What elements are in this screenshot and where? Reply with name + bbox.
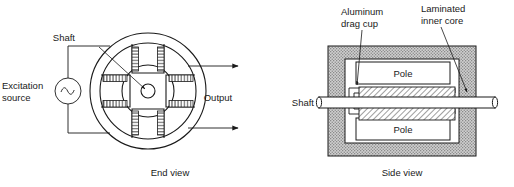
diagram-svg: Shaft Excitation source Output End view … — [0, 0, 514, 187]
shaft-end-cap-left-icon — [316, 97, 321, 108]
side-view-pole-top-label: Pole — [393, 68, 412, 79]
aluminum-drag-cup-label-line2: drag cup — [341, 18, 378, 29]
pole-right-winding-top — [169, 75, 193, 82]
excitation-circuit — [55, 46, 110, 133]
end-view-group: Shaft Excitation source Output End view — [2, 32, 238, 178]
pole-bottom-winding-left — [132, 111, 139, 135]
side-view-shaft-bar — [319, 97, 495, 108]
pole-left — [101, 75, 130, 107]
aluminum-drag-cup-label-line1: Aluminum — [341, 6, 383, 17]
pole-top-winding-right — [158, 47, 165, 71]
end-view-caption: End view — [151, 167, 190, 178]
pole-right-winding-bottom — [169, 101, 193, 108]
side-view-group: Pole Pole Aluminum drag cup Laminated in… — [292, 3, 498, 178]
side-view-shaft-label: Shaft — [292, 97, 315, 108]
figure-container: Shaft Excitation source Output End view … — [0, 0, 514, 187]
pole-left-winding-bottom — [103, 101, 127, 108]
pole-bottom-winding-right — [158, 111, 165, 135]
excitation-source-label-line2: source — [2, 92, 31, 103]
end-view-shaft-label: Shaft — [53, 32, 76, 43]
pole-right — [166, 75, 195, 107]
stator-inner-circle — [100, 43, 196, 139]
stator-outer-circle — [90, 33, 206, 149]
excitation-source-label-line1: Excitation — [2, 80, 43, 91]
pole-left-winding-top — [103, 75, 127, 82]
pole-top — [132, 44, 164, 73]
laminated-inner-core-label-line2: inner core — [421, 15, 463, 26]
output-label: Output — [204, 92, 233, 103]
ac-source-sine-icon — [61, 88, 74, 95]
laminated-inner-core-label-line1: Laminated — [421, 3, 465, 14]
side-view-caption: Side view — [382, 167, 423, 178]
shaft-end-cap-right-icon — [492, 97, 497, 108]
shaft-circle — [141, 84, 155, 98]
pole-bottom — [132, 109, 164, 138]
pole-top-winding-left — [132, 47, 139, 71]
side-view-pole-bottom-label: Pole — [393, 124, 412, 135]
